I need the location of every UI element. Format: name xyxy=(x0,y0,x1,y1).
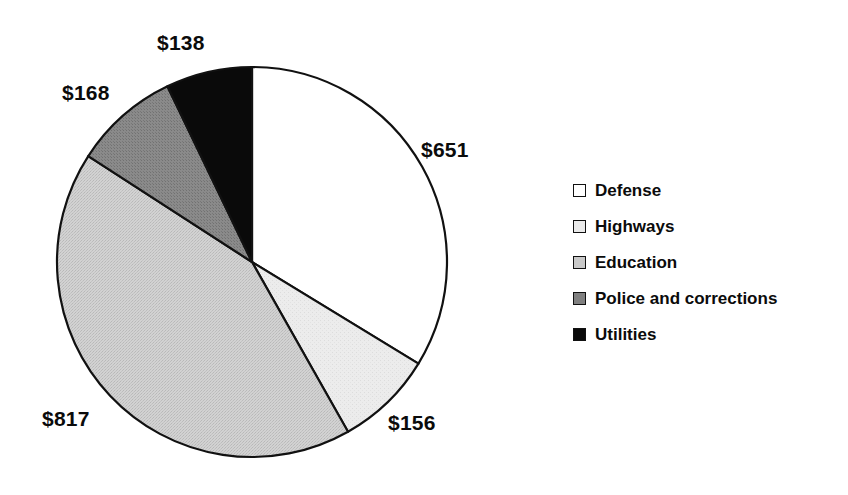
legend-swatch-highways-icon xyxy=(573,220,586,233)
legend-item-highways[interactable]: Highways xyxy=(573,208,835,244)
legend-item-police-and-corrections[interactable]: Police and corrections xyxy=(573,280,835,316)
legend-item-utilities[interactable]: Utilities xyxy=(573,316,835,352)
legend-swatch-defense-icon xyxy=(573,184,586,197)
pie-chart-plot-area: $138 $168 $651 $817 $156 xyxy=(0,0,530,495)
legend-label-police-and-corrections: Police and corrections xyxy=(595,290,777,307)
legend-swatch-education-icon xyxy=(573,256,586,269)
legend-item-education[interactable]: Education xyxy=(573,244,835,280)
slice-label-utilities: $138 xyxy=(157,32,205,53)
legend-label-education: Education xyxy=(595,254,677,271)
pie-slices-group xyxy=(57,67,447,457)
legend-label-utilities: Utilities xyxy=(595,326,656,343)
pie-chart-figure: $138 $168 $651 $817 $156 Defense Highway… xyxy=(0,0,848,495)
legend-label-highways: Highways xyxy=(595,218,674,235)
slice-label-police-and-corrections: $168 xyxy=(62,82,110,103)
slice-label-defense: $651 xyxy=(421,139,469,160)
legend-item-defense[interactable]: Defense xyxy=(573,172,835,208)
chart-legend: Defense Highways Education Police and co… xyxy=(573,172,835,352)
legend-swatch-utilities-icon xyxy=(573,328,586,341)
slice-label-education: $817 xyxy=(42,408,90,429)
legend-label-defense: Defense xyxy=(595,182,661,199)
slice-label-highways: $156 xyxy=(388,412,436,433)
legend-swatch-police-and-corrections-icon xyxy=(573,292,586,305)
